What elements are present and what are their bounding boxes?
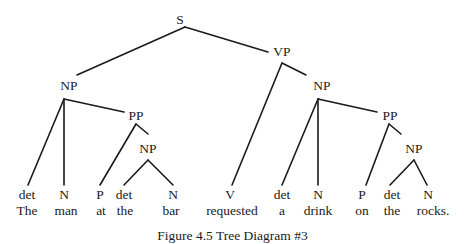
node-s: S	[176, 12, 184, 27]
node-pp-subject: PP	[128, 108, 143, 123]
edge-np3-det	[282, 99, 318, 185]
edge-np4-det	[390, 160, 414, 185]
edge-pp-p	[100, 124, 136, 185]
edge-pp2-np	[389, 124, 401, 134]
edge-pp-np	[136, 124, 148, 134]
leaf-category: N	[423, 187, 433, 202]
leaf-category: P	[96, 187, 104, 202]
node-np-subject-inner: NP	[139, 141, 156, 156]
edge-np3-pp	[318, 99, 377, 112]
edge-np2-n	[148, 160, 173, 185]
leaf-word: drink	[304, 203, 333, 218]
leaf-category: det	[384, 187, 401, 202]
leaf-word: on	[355, 203, 369, 218]
edge-s-np	[77, 27, 185, 75]
node-vp: VP	[273, 44, 290, 59]
leaf-word: rocks.	[417, 203, 450, 218]
leaf-word: The	[17, 203, 38, 218]
node-np-subject: NP	[60, 78, 77, 93]
edge-vp-np	[282, 63, 306, 75]
leaf-word: the	[117, 203, 134, 218]
edge-np4-n	[414, 160, 427, 185]
edge-pp2-p	[366, 124, 389, 185]
leaf-category: det	[274, 187, 291, 202]
leaf-word: requested	[206, 203, 258, 218]
leaf-word: the	[384, 203, 401, 218]
leaf-word: bar	[162, 203, 180, 218]
node-np-object-inner: NP	[405, 141, 422, 156]
leaf-category: P	[358, 187, 366, 202]
leaf-category: V	[225, 187, 235, 202]
leaf-category: N	[59, 187, 69, 202]
edge-np2-det	[124, 160, 148, 185]
leaf-word: a	[279, 203, 285, 218]
edge-vp-v	[232, 63, 282, 185]
leaf-category: N	[313, 187, 323, 202]
edge-s-vp	[185, 27, 268, 52]
node-pp-object: PP	[382, 108, 397, 123]
figure-caption: Figure 4.5 Tree Diagram #3	[0, 228, 465, 244]
leaf-word: man	[54, 203, 77, 218]
edge-np-pp	[64, 99, 124, 112]
leaf-category: N	[168, 187, 178, 202]
leaf-word: at	[96, 203, 106, 218]
edge-np-det	[28, 99, 64, 185]
leaf-category: det	[116, 187, 133, 202]
node-np-object: NP	[313, 78, 330, 93]
leaf-category: det	[19, 187, 36, 202]
